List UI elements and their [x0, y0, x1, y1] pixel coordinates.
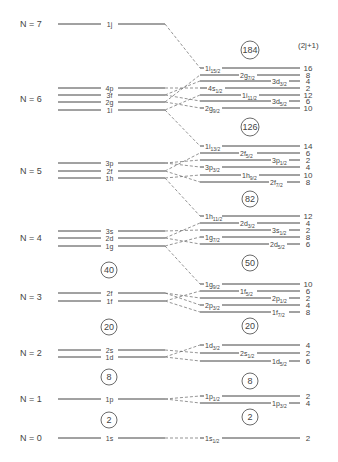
degeneracy-value: 8 — [306, 178, 311, 187]
split-level: 1d3/24 — [165, 340, 311, 357]
connector-line — [165, 230, 200, 231]
magic-value: 8 — [106, 372, 111, 382]
orbital-label: 1p — [106, 396, 114, 404]
magic-number: 126 — [241, 118, 259, 136]
split-level: 2g9/210 — [165, 102, 313, 114]
orbital-label: 2f — [107, 168, 113, 175]
orbital-label: 1g — [106, 243, 114, 251]
connector-line — [165, 345, 200, 357]
split-level: 1i15/216 — [165, 24, 313, 74]
split-level: 1i13/214 — [165, 110, 313, 152]
connector-line — [165, 237, 200, 246]
split-level: 1s1/22 — [165, 433, 311, 444]
connector-line — [165, 110, 200, 146]
split-level: 1d5/26 — [165, 356, 311, 367]
orbital-label: 3f — [107, 92, 113, 99]
degeneracy-value: 6 — [306, 357, 311, 366]
connector-line — [165, 95, 200, 110]
magic-value: 8 — [247, 376, 252, 386]
orbital-label: 1h — [106, 175, 114, 182]
degeneracy-value: 8 — [306, 308, 311, 317]
split-level: 3p1/22 — [165, 155, 311, 166]
split-level: 2f7/28 — [165, 171, 311, 188]
connector-line — [165, 178, 200, 216]
connector-line — [165, 291, 200, 301]
connector-line — [165, 301, 200, 312]
magic-value: 20 — [104, 322, 114, 332]
split-level: 1h9/210 — [165, 170, 313, 181]
shell-label: N = 0 — [20, 433, 42, 443]
orbital-label: 1f — [107, 298, 113, 305]
degeneracy-value: 6 — [306, 240, 311, 249]
connector-line — [165, 175, 200, 178]
connector-line — [165, 396, 200, 399]
degeneracy-header: (2j+1) — [298, 41, 319, 50]
magic-numbers: 40208218412682502082 — [101, 41, 259, 428]
shell-label: N = 7 — [20, 19, 42, 29]
connector-line — [165, 399, 200, 403]
orbital-label: 1j — [107, 21, 113, 29]
shell-label: N = 1 — [20, 394, 42, 404]
magic-value: 20 — [245, 321, 255, 331]
magic-value: 2 — [106, 415, 111, 425]
magic-number: 20 — [242, 318, 258, 334]
connector-line — [165, 102, 200, 108]
shell-label: N = 5 — [20, 166, 42, 176]
connector-line — [165, 350, 200, 353]
orbital-label: 1d — [106, 354, 114, 361]
degeneracy-value: 4 — [306, 399, 311, 408]
split-level: 3s1/22 — [165, 225, 311, 236]
shell-label: N = 2 — [20, 348, 42, 358]
oscillator-shell: N = 64p3f2g1i — [20, 85, 165, 114]
orbital-label: 2s — [106, 347, 114, 354]
connector-line — [165, 293, 200, 298]
split-level: 1h11/212 — [165, 178, 313, 222]
magic-value: 126 — [242, 122, 257, 132]
magic-number: 20 — [101, 319, 117, 335]
oscillator-shell: N = 22s1d — [20, 347, 165, 361]
connector-line — [165, 24, 200, 68]
oscillator-shell: N = 71j — [20, 19, 165, 29]
magic-number: 40 — [101, 262, 117, 278]
magic-value: 40 — [104, 265, 114, 275]
magic-number: 50 — [242, 255, 258, 271]
orbital-label: 2d — [106, 235, 114, 242]
magic-number: 8 — [101, 369, 117, 385]
connector-line — [165, 153, 200, 171]
orbital-label: 1i — [107, 107, 113, 114]
split-level: 3d5/26 — [165, 95, 311, 107]
orbital-label: 1s — [106, 435, 114, 442]
connector-line — [165, 293, 200, 305]
connector-line — [165, 238, 200, 244]
orbital-label: 2g — [106, 99, 114, 107]
oscillator-shell: N = 43s2d1g — [20, 228, 165, 251]
magic-number: 82 — [242, 191, 258, 207]
split-level: 1f7/28 — [165, 301, 311, 318]
split-level: 1g9/210 — [165, 246, 313, 290]
magic-number: 184 — [241, 41, 259, 59]
orbital-label: 2f — [107, 290, 113, 297]
spin-orbit-levels: 1i15/2162g7/283d3/244s1/221i11/2123d5/26… — [165, 24, 313, 444]
magic-number: 2 — [242, 409, 258, 425]
oscillator-shell: N = 01s — [20, 433, 165, 443]
magic-number: 8 — [242, 373, 258, 389]
oscillator-shell: N = 53p2f1h — [20, 160, 165, 182]
magic-value: 2 — [247, 412, 252, 422]
oscillator-shell: N = 11p — [20, 394, 165, 404]
magic-value: 82 — [245, 194, 255, 204]
connector-line — [165, 163, 200, 167]
split-level: 1i11/212 — [165, 90, 313, 110]
oscillator-levels: N = 71jN = 64p3f2g1iN = 53p2f1hN = 43s2d… — [20, 19, 165, 443]
magic-number: 2 — [101, 412, 117, 428]
shell-model-diagram: (2j+1) N = 71jN = 64p3f2g1iN = 53p2f1hN … — [0, 0, 338, 462]
split-level: 1p3/24 — [165, 398, 311, 409]
connector-line — [165, 160, 200, 163]
magic-value: 50 — [245, 258, 255, 268]
shell-label: N = 3 — [20, 292, 42, 302]
shell-label: N = 4 — [20, 233, 42, 243]
orbital-label: 3p — [106, 160, 114, 168]
split-level: 2d5/26 — [165, 238, 311, 250]
magic-value: 184 — [242, 45, 257, 55]
degeneracy-value: 2 — [306, 434, 311, 443]
shell-label: N = 6 — [20, 94, 42, 104]
